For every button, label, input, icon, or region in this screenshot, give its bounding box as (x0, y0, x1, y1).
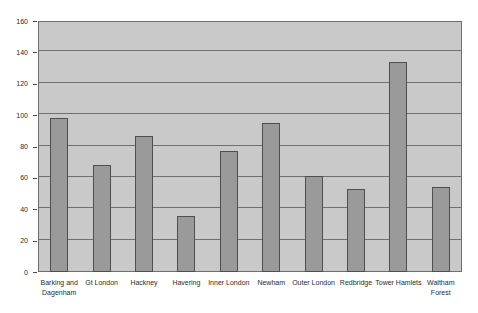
y-tick-mark (33, 84, 37, 85)
x-tick-label: Gt London (78, 278, 124, 288)
y-tick-mark (33, 272, 37, 273)
y-tick-mark (33, 178, 37, 179)
y-tick-label: 60 (20, 174, 28, 181)
y-tick-mark (33, 115, 37, 116)
x-tick-label: Havering (163, 278, 209, 288)
bar (389, 62, 407, 272)
x-axis: Barking and DagenhamGt LondonHackneyHave… (38, 278, 462, 311)
y-tick-label: 40 (20, 206, 28, 213)
y-tick-mark (33, 147, 37, 148)
y-tick-label: 0 (24, 269, 28, 276)
y-tick-label: 20 (20, 237, 28, 244)
x-tick-label: Redbridge (333, 278, 379, 288)
x-tick-label: Inner London (206, 278, 252, 288)
x-tick-label: Tower Hamlets (375, 278, 421, 288)
bar (93, 165, 111, 272)
bars-layer (38, 21, 462, 272)
y-tick-label: 100 (16, 112, 28, 119)
bar-chart: 020406080100120140160 Barking and Dagenh… (0, 0, 478, 313)
y-tick-label: 160 (16, 18, 28, 25)
y-tick-label: 120 (16, 80, 28, 87)
bar (262, 123, 280, 272)
bar (220, 151, 238, 272)
y-tick-label: 140 (16, 49, 28, 56)
y-tick-mark (33, 52, 37, 53)
y-tick-mark (33, 21, 37, 22)
x-tick-label: Outer London (290, 278, 336, 288)
y-tick-mark (33, 209, 37, 210)
x-tick-label: Barking and Dagenham (36, 278, 82, 297)
y-tick-mark (33, 241, 37, 242)
x-tick-label: Hackney (121, 278, 167, 288)
y-axis: 020406080100120140160 (0, 0, 34, 313)
bar (432, 187, 450, 272)
bar (177, 216, 195, 272)
bar (305, 176, 323, 272)
bar (347, 189, 365, 272)
x-tick-label: Newham (248, 278, 294, 288)
bar (50, 118, 68, 272)
bar (135, 136, 153, 272)
y-tick-label: 80 (20, 143, 28, 150)
x-tick-label: Waltham Forest (418, 278, 464, 297)
